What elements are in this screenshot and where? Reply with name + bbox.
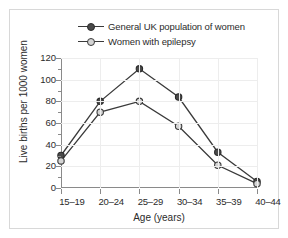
y-axis-tick-labels: 020406080100120 bbox=[28, 58, 56, 188]
y-axis-tick-label: 20 bbox=[45, 161, 56, 171]
gridline-vertical bbox=[100, 58, 101, 188]
x-axis-tick bbox=[139, 189, 140, 194]
series-line bbox=[61, 101, 257, 183]
x-axis-tick-label: 20–24 bbox=[98, 196, 123, 207]
x-axis-ticks bbox=[61, 189, 258, 195]
y-axis-tick bbox=[56, 101, 61, 102]
gridline-horizontal bbox=[61, 58, 257, 59]
gridline-horizontal bbox=[61, 145, 257, 146]
y-axis-tick-label: 80 bbox=[45, 96, 56, 106]
y-axis-minor-tick bbox=[58, 177, 61, 178]
y-axis-tick bbox=[56, 145, 61, 146]
x-axis-tick-label: 35–39 bbox=[216, 196, 241, 207]
x-axis-tick bbox=[100, 189, 101, 194]
legend-marker-open-circle-icon bbox=[78, 36, 104, 48]
chart-figure: General UK population of women Women wit… bbox=[0, 0, 288, 238]
chart-legend: General UK population of women Women wit… bbox=[78, 19, 278, 49]
x-axis-tick-label: 15–19 bbox=[59, 196, 84, 207]
legend-marker-filled-circle-icon bbox=[78, 21, 104, 33]
gridline-vertical bbox=[139, 58, 140, 188]
legend-label-women-with-epilepsy: Women with epilepsy bbox=[108, 36, 196, 47]
y-axis-minor-tick bbox=[58, 112, 61, 113]
gridline-horizontal bbox=[61, 101, 257, 102]
y-axis-tick-label: 120 bbox=[40, 53, 56, 63]
legend-item-general-population: General UK population of women bbox=[78, 19, 278, 34]
y-axis-title: Live births per 1000 women bbox=[18, 27, 29, 177]
gridline-horizontal bbox=[61, 166, 257, 167]
x-axis-tick-label: 30–34 bbox=[177, 196, 202, 207]
y-axis-minor-tick bbox=[58, 69, 61, 70]
y-axis-tick bbox=[56, 80, 61, 81]
x-axis-tick bbox=[257, 189, 258, 194]
x-axis-tick-labels: 15–1920–2425–2930–3435–3940–44 bbox=[40, 196, 280, 210]
x-axis-tick-label: 25–29 bbox=[138, 196, 163, 207]
gridline-vertical bbox=[257, 58, 258, 188]
gridline-vertical bbox=[218, 58, 219, 188]
data-point-marker bbox=[58, 158, 64, 164]
y-axis-minor-tick bbox=[58, 156, 61, 157]
y-axis-tick bbox=[56, 166, 61, 167]
x-axis-title: Age (years) bbox=[61, 212, 257, 223]
x-axis-tick bbox=[218, 189, 219, 194]
y-axis-tick-label: 40 bbox=[45, 140, 56, 150]
y-axis-tick bbox=[56, 123, 61, 124]
legend-item-women-with-epilepsy: Women with epilepsy bbox=[78, 34, 278, 49]
legend-label-general-population: General UK population of women bbox=[108, 21, 245, 32]
y-axis-tick-label: 60 bbox=[45, 118, 56, 128]
x-axis-tick bbox=[61, 189, 62, 194]
y-axis-minor-tick bbox=[58, 91, 61, 92]
x-axis-tick bbox=[179, 189, 180, 194]
gridline-vertical bbox=[179, 58, 180, 188]
plot-area bbox=[61, 58, 257, 188]
x-axis-tick-label: 40–44 bbox=[255, 196, 280, 207]
y-axis-tick-label: 100 bbox=[40, 75, 56, 85]
y-axis-minor-tick bbox=[58, 134, 61, 135]
gridline-horizontal bbox=[61, 80, 257, 81]
gridline-horizontal bbox=[61, 123, 257, 124]
y-axis-tick bbox=[56, 58, 61, 59]
